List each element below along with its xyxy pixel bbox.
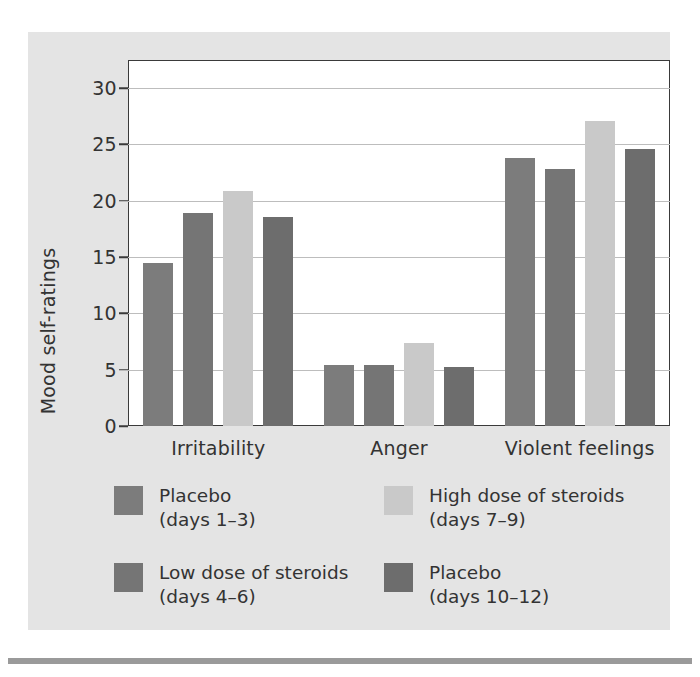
- y-tick-label: 30: [92, 77, 117, 99]
- legend-entry: High dose of steroids(days 7–9): [384, 484, 654, 531]
- bar: [143, 263, 173, 426]
- legend-label: Placebo(days 10–12): [429, 561, 549, 608]
- legend-swatch-icon: [114, 486, 143, 515]
- legend-series-days: (days 1–3): [159, 508, 256, 532]
- y-tick-mark: [119, 87, 128, 89]
- bar: [364, 365, 394, 426]
- legend-series-days: (days 10–12): [429, 585, 549, 609]
- bar: [625, 149, 655, 426]
- legend-label: Placebo(days 1–3): [159, 484, 256, 531]
- y-tick-label: 10: [92, 302, 117, 324]
- legend-entry: Low dose of steroids(days 4–6): [114, 561, 384, 608]
- y-tick-mark: [119, 313, 128, 315]
- y-tick-label: 25: [92, 133, 117, 155]
- legend-swatch-icon: [114, 563, 143, 592]
- bar: [263, 217, 293, 426]
- y-tick-mark: [119, 425, 128, 427]
- y-tick-mark: [119, 144, 128, 146]
- legend-swatch-icon: [384, 486, 413, 515]
- legend-series-days: (days 4–6): [159, 585, 348, 609]
- legend-swatch-icon: [384, 563, 413, 592]
- legend-series-name: Low dose of steroids: [159, 562, 348, 583]
- y-tick-label: 0: [105, 415, 117, 437]
- y-tick-mark: [119, 200, 128, 202]
- y-tick-label: 20: [92, 190, 117, 212]
- chart-legend: Placebo(days 1–3)High dose of steroids(d…: [114, 484, 654, 639]
- bottom-divider: [8, 658, 692, 664]
- figure-panel: 051015202530 IrritabilityAngerViolent fe…: [28, 32, 670, 630]
- y-tick-mark: [119, 256, 128, 258]
- y-axis-title: Mood self-ratings: [37, 248, 59, 415]
- legend-label: Low dose of steroids(days 4–6): [159, 561, 348, 608]
- gridline: [128, 88, 670, 89]
- bar: [505, 158, 535, 426]
- legend-series-name: Placebo: [159, 485, 231, 506]
- bar: [324, 365, 354, 426]
- y-tick-mark: [119, 369, 128, 371]
- x-category-label: Irritability: [171, 437, 265, 459]
- legend-entry: Placebo(days 1–3): [114, 484, 384, 531]
- bar: [183, 213, 213, 426]
- y-tick-label: 5: [105, 359, 117, 381]
- legend-entry: Placebo(days 10–12): [384, 561, 654, 608]
- bar: [585, 121, 615, 426]
- bar: [404, 343, 434, 426]
- legend-series-days: (days 7–9): [429, 508, 624, 532]
- bar: [223, 191, 253, 426]
- x-category-label: Anger: [370, 437, 428, 459]
- legend-label: High dose of steroids(days 7–9): [429, 484, 624, 531]
- legend-series-name: High dose of steroids: [429, 485, 624, 506]
- bar: [444, 367, 474, 426]
- legend-series-name: Placebo: [429, 562, 501, 583]
- plot-area: 051015202530 IrritabilityAngerViolent fe…: [128, 60, 670, 426]
- x-category-label: Violent feelings: [505, 437, 655, 459]
- bar: [545, 169, 575, 426]
- y-tick-label: 15: [92, 246, 117, 268]
